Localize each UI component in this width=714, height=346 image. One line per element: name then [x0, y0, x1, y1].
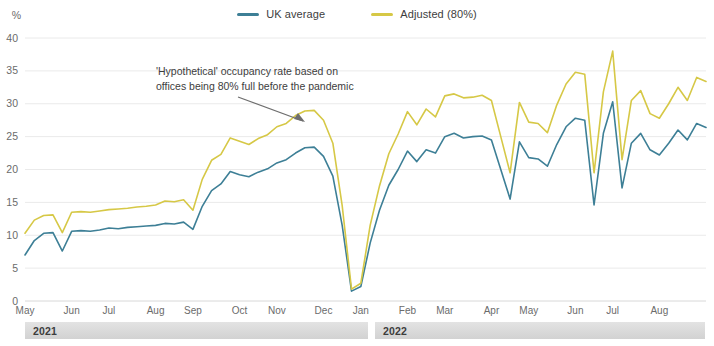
x-tick-label: May — [519, 305, 538, 316]
y-tick-label: 40 — [6, 32, 18, 44]
x-tick-label: Aug — [147, 305, 165, 316]
plot-area: 0510152025303540% MayJunJulAugSepOctNovD… — [0, 0, 714, 346]
x-tick-label: Jun — [64, 305, 80, 316]
annotation-callout: 'Hypothetical' occupancy rate based on o… — [156, 65, 354, 122]
x-tick-label: Jul — [606, 305, 619, 316]
x-tick-label: Jul — [103, 305, 116, 316]
year-band-label-2021: 2021 — [25, 325, 57, 337]
y-axis-labels: 0510152025303540% — [6, 9, 21, 307]
y-tick-label: 35 — [6, 64, 18, 76]
x-tick-label: Feb — [399, 305, 417, 316]
y-tick-label: 30 — [6, 97, 18, 109]
y-tick-label: 15 — [6, 196, 18, 208]
y-tick-label: 10 — [6, 229, 18, 241]
y-tick-label: 25 — [6, 130, 18, 142]
year-band-label-2022: 2022 — [375, 325, 407, 337]
data-series — [25, 51, 706, 291]
x-tick-label: Oct — [232, 305, 248, 316]
x-tick-label: Apr — [484, 305, 500, 316]
annotation-line-2: offices being 80% full before the pandem… — [156, 80, 354, 92]
x-tick-label: Aug — [650, 305, 668, 316]
x-tick-label: Sep — [184, 305, 202, 316]
annotation-arrow-line — [238, 97, 303, 121]
annotation-line-1: 'Hypothetical' occupancy rate based on — [156, 65, 338, 77]
y-tick-label: 20 — [6, 163, 18, 175]
x-tick-label: Jun — [567, 305, 583, 316]
x-tick-label: May — [16, 305, 35, 316]
occupancy-rate-chart: UK average Adjusted (80%) 05101520253035… — [0, 0, 714, 346]
series-line-uk-average — [25, 102, 706, 291]
x-tick-label: Jan — [353, 305, 369, 316]
x-axis-labels: MayJunJulAugSepOctNovDecJanFebMarAprMayJ… — [16, 305, 669, 316]
y-tick-label: 5 — [12, 262, 18, 274]
year-band-2021: 2021 — [25, 322, 368, 339]
y-axis-unit-label: % — [12, 9, 21, 21]
x-tick-label: Mar — [436, 305, 454, 316]
year-band-2022: 2022 — [375, 322, 705, 339]
series-line-adjusted-80 — [25, 51, 706, 289]
x-tick-label: Nov — [268, 305, 286, 316]
chart-canvas: 0510152025303540% MayJunJulAugSepOctNovD… — [0, 0, 714, 346]
x-tick-label: Dec — [315, 305, 333, 316]
